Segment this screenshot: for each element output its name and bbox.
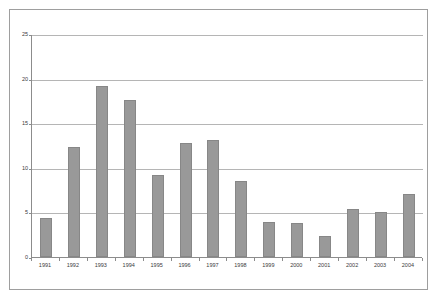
x-axis-tick: 1997 <box>199 258 227 274</box>
y-axis-tick-label: 25 <box>22 32 28 38</box>
x-axis-tick: 2002 <box>338 258 366 274</box>
bar[interactable] <box>291 223 303 257</box>
x-axis-tick-label: 1999 <box>254 263 282 269</box>
bar[interactable] <box>207 140 219 257</box>
bar[interactable] <box>235 181 247 257</box>
x-axis-ticks: 1991199219931994199519961997199819992000… <box>31 258 422 274</box>
bar[interactable] <box>152 175 164 257</box>
bar-slot <box>32 34 60 257</box>
y-axis-tick-label: 10 <box>22 166 28 172</box>
x-axis-tick-label: 2002 <box>338 263 366 269</box>
x-axis-tick-label: 2003 <box>366 263 394 269</box>
x-axis-tick-mark <box>366 258 367 261</box>
x-axis-tick: 1995 <box>143 258 171 274</box>
x-axis-tick-mark <box>199 258 200 261</box>
bar[interactable] <box>124 100 136 257</box>
x-axis-tick: 2001 <box>310 258 338 274</box>
bar[interactable] <box>96 86 108 257</box>
x-axis-tick-mark <box>338 258 339 261</box>
x-axis-tick-mark <box>59 258 60 261</box>
bar-slot <box>144 34 172 257</box>
x-axis-tick-label: 1992 <box>59 263 87 269</box>
x-axis-tick: 1999 <box>254 258 282 274</box>
chart-figure: 0510152025 19911992199319941995199619971… <box>0 0 438 302</box>
bar[interactable] <box>403 194 415 257</box>
x-axis-tick-mark <box>87 258 88 261</box>
bar-slot <box>227 34 255 257</box>
bar[interactable] <box>319 236 331 257</box>
x-axis-tick-label: 2000 <box>282 263 310 269</box>
x-axis-end-tick <box>422 258 423 261</box>
bar-slot <box>339 34 367 257</box>
x-axis-tick-label: 1991 <box>31 263 59 269</box>
x-axis-tick-label: 1998 <box>226 263 254 269</box>
x-axis-tick: 1996 <box>171 258 199 274</box>
x-axis-tick-mark <box>143 258 144 261</box>
y-axis-tick-label: 15 <box>22 121 28 127</box>
bar-slot <box>116 34 144 257</box>
bar-slot <box>88 34 116 257</box>
x-axis-tick: 2004 <box>394 258 422 274</box>
plot-area: 0510152025 <box>31 35 422 258</box>
x-axis-tick-label: 1997 <box>199 263 227 269</box>
x-axis-tick-label: 1996 <box>171 263 199 269</box>
x-axis-tick-mark <box>254 258 255 261</box>
x-axis-tick: 1998 <box>226 258 254 274</box>
x-axis-tick-label: 1995 <box>143 263 171 269</box>
x-axis-tick-mark <box>282 258 283 261</box>
x-axis-tick: 1991 <box>31 258 59 274</box>
y-axis-tick-label: 0 <box>25 255 28 261</box>
bar[interactable] <box>40 218 52 257</box>
bar-slot <box>311 34 339 257</box>
x-axis-tick-label: 1994 <box>115 263 143 269</box>
bar[interactable] <box>375 212 387 257</box>
bar-slot <box>255 34 283 257</box>
y-axis-tick-label: 20 <box>22 77 28 83</box>
x-axis-tick: 1992 <box>59 258 87 274</box>
x-axis-tick: 2000 <box>282 258 310 274</box>
bar-slot <box>367 34 395 257</box>
y-axis-tick-label: 5 <box>25 211 28 217</box>
x-axis-tick: 2003 <box>366 258 394 274</box>
bar[interactable] <box>180 143 192 257</box>
bars-group <box>32 34 423 257</box>
x-axis-tick-mark <box>226 258 227 261</box>
x-axis-tick-label: 2004 <box>394 263 422 269</box>
bar[interactable] <box>68 147 80 257</box>
x-axis-tick-label: 1993 <box>87 263 115 269</box>
bar-slot <box>283 34 311 257</box>
x-axis-tick-mark <box>31 258 32 261</box>
x-axis-tick-mark <box>310 258 311 261</box>
bar-slot <box>200 34 228 257</box>
bar-slot <box>395 34 423 257</box>
x-axis-tick-mark <box>115 258 116 261</box>
x-axis-tick-mark <box>394 258 395 261</box>
x-axis-tick: 1994 <box>115 258 143 274</box>
bar-slot <box>172 34 200 257</box>
x-axis-tick-mark <box>171 258 172 261</box>
bar[interactable] <box>263 222 275 257</box>
x-axis-tick: 1993 <box>87 258 115 274</box>
x-axis-tick-label: 2001 <box>310 263 338 269</box>
bar-slot <box>60 34 88 257</box>
bar[interactable] <box>347 209 359 257</box>
